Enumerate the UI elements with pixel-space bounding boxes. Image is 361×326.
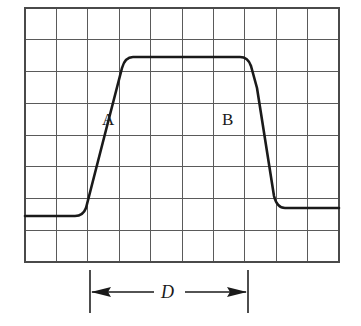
point-label-a: A: [102, 110, 115, 129]
pulse-waveform-figure: A B D: [0, 0, 361, 326]
figure-background: [0, 0, 361, 326]
waveform-svg-canvas: A B D: [0, 0, 361, 326]
dimension-label-d: D: [160, 282, 174, 302]
point-label-b: B: [222, 110, 233, 129]
